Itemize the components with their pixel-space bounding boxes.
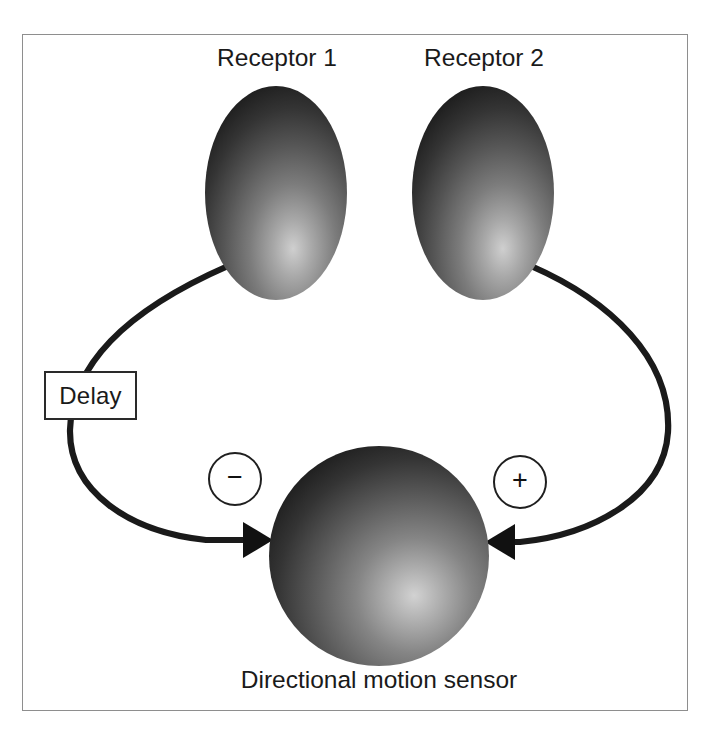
plus-icon: + [512, 467, 528, 494]
delay-label: Delay [46, 373, 135, 418]
receptor-2-label: Receptor 2 [409, 44, 559, 72]
sensor-shape [269, 446, 489, 666]
minus-icon: − [227, 464, 243, 491]
receptor-1-shape [205, 86, 347, 300]
plus-sign-badge: + [493, 455, 547, 509]
diagram-canvas: Receptor 1 Receptor 2 Delay − + Directio… [0, 0, 706, 739]
right-pathway-connector [485, 266, 668, 560]
receptor-2-shape [412, 86, 554, 300]
diagram-graphics [0, 0, 706, 739]
receptor-1-label: Receptor 1 [202, 44, 352, 72]
sensor-label: Directional motion sensor [179, 666, 579, 694]
delay-box: Delay [44, 371, 137, 420]
minus-sign-badge: − [208, 452, 262, 506]
right-arrowhead-icon [485, 524, 515, 560]
left-arrowhead-icon [243, 522, 273, 558]
